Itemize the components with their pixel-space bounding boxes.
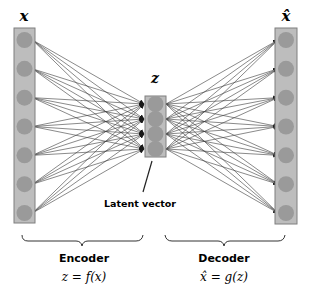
input-node [17, 32, 33, 48]
input-node [17, 90, 33, 106]
latent-label: z [150, 70, 160, 86]
decoder-brace [165, 235, 285, 246]
input-layer [14, 28, 35, 223]
edge [33, 134, 145, 184]
output-layer [275, 28, 297, 224]
latent-layer [145, 96, 166, 157]
output-node [278, 147, 294, 163]
edge [166, 40, 278, 134]
input-node [17, 176, 33, 192]
latent-node [148, 96, 164, 112]
encoder-title: Encoder [59, 252, 110, 265]
decoder-formula: x̂ = g(z) [200, 270, 248, 284]
output-label: x̂ [281, 7, 292, 25]
edge [166, 69, 278, 119]
latent-node [148, 141, 164, 157]
output-node [278, 205, 294, 221]
output-node [278, 61, 294, 77]
input-node [17, 61, 33, 77]
input-node [17, 119, 33, 135]
latent-node [148, 126, 164, 142]
autoencoder-diagram: x z x̂ Latent vector Encoder z = f(x) De… [0, 0, 309, 299]
output-node [278, 176, 294, 192]
input-label: x [19, 7, 30, 25]
output-node [278, 119, 294, 135]
input-node [17, 205, 33, 221]
encoder-formula: z = f(x) [61, 270, 107, 284]
latent-node [148, 111, 164, 127]
decoder-title: Decoder [198, 252, 250, 265]
edge [166, 40, 278, 119]
latent-pointer-line [143, 161, 152, 192]
edge [33, 119, 145, 184]
encoder-brace [22, 235, 143, 246]
output-node [278, 90, 294, 106]
input-node [17, 147, 33, 163]
output-node [278, 32, 294, 48]
edge [166, 69, 278, 134]
latent-caption: Latent vector [104, 198, 176, 209]
